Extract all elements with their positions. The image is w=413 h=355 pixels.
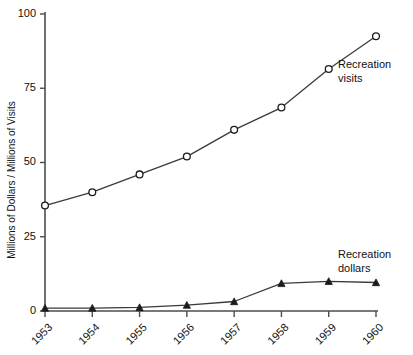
x-tick-label: 1953 [29,321,55,347]
data-point-marker [183,153,190,160]
data-point-marker [325,66,332,73]
x-tick-label: 1957 [218,321,244,347]
series-label-dollars: Recreation dollars [338,248,391,274]
series-label-visits: Recreation visits [338,58,391,84]
data-point-marker [136,171,143,178]
series-polyline [45,281,376,308]
series-polyline [45,36,376,205]
plot-area [41,33,379,311]
line-chart: Millions of Dollars / Millions of Visits… [0,0,413,355]
data-point-marker [42,202,49,209]
x-tick-group: 19531954195519561957195819591960 [29,311,386,347]
y-tick-group: 0255075100 [18,7,45,316]
y-axis-title: Millions of Dollars / Millions of Visits [6,101,17,259]
series-recreation-dollars [41,278,379,312]
x-tick-label: 1954 [76,321,102,347]
x-tick-label: 1960 [360,321,386,347]
y-tick-label: 0 [30,304,36,316]
dollars-label-line1: Recreation [338,248,391,260]
x-tick-label: 1958 [265,321,291,347]
x-tick-label: 1956 [170,321,196,347]
data-point-marker [373,33,380,40]
y-tick-label: 50 [24,155,36,167]
x-tick-label: 1955 [123,321,149,347]
x-tick-label: 1959 [312,321,338,347]
y-tick-label: 25 [24,230,36,242]
data-point-marker [231,126,238,133]
chart-container: Millions of Dollars / Millions of Visits… [0,0,413,355]
x-axis: 19531954195519561957195819591960 [29,311,386,347]
dollars-label-line2: dollars [338,262,371,274]
series-recreation-visits [42,33,380,209]
visits-label-line1: Recreation [338,58,391,70]
visits-label-line2: visits [338,72,363,84]
data-point-marker [89,189,96,196]
data-point-marker [278,104,285,111]
y-axis: 0255075100 [18,7,45,316]
y-tick-label: 75 [24,81,36,93]
y-tick-label: 100 [18,7,36,19]
